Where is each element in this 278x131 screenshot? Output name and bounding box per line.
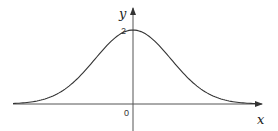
- peak-label: 2: [121, 26, 126, 36]
- x-axis-label: x: [257, 112, 265, 127]
- graph: y x 2 0: [0, 0, 278, 131]
- y-axis-label: y: [118, 6, 127, 21]
- bell-curve: [13, 30, 255, 104]
- origin-label: 0: [124, 108, 129, 118]
